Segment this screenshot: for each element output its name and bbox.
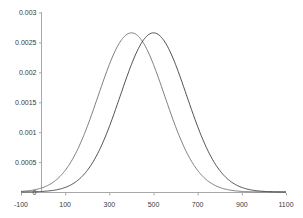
data-curve-right xyxy=(21,33,286,192)
x-axis-ticks xyxy=(22,193,287,196)
x-axis-tick-label: 500 xyxy=(134,200,174,209)
x-axis-tick-label: 900 xyxy=(222,200,262,209)
y-axis-tick-label: 0 xyxy=(0,188,37,197)
x-axis-tick-label: 1100 xyxy=(266,200,303,209)
axes-group xyxy=(21,12,287,196)
y-axis-tick-label: 0.0005 xyxy=(0,158,37,167)
y-axis-tick-label: 0.0015 xyxy=(0,98,37,107)
series-group xyxy=(21,33,286,192)
y-axis-tick-label: 0.002 xyxy=(0,68,37,77)
y-axis-tick-label: 0.003 xyxy=(0,8,37,17)
x-axis-tick-label: 700 xyxy=(178,200,218,209)
data-curve-left xyxy=(21,33,286,192)
y-axis-tick-label: 0.0025 xyxy=(0,38,37,47)
chart-container: 00.00050.0010.00150.0020.00250.003 -1001… xyxy=(0,0,303,218)
x-axis-tick-label: 300 xyxy=(89,200,129,209)
x-axis-tick-label: 100 xyxy=(45,200,85,209)
y-axis-tick-label: 0.001 xyxy=(0,128,37,137)
x-axis-tick-label: -100 xyxy=(1,200,41,209)
plot-area xyxy=(0,0,303,218)
